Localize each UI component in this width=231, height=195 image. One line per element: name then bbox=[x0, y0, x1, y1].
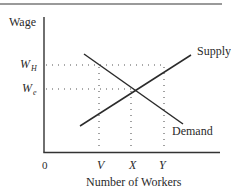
x-axis-label: Number of Workers bbox=[86, 176, 181, 188]
tick-label-origin: 0 bbox=[42, 159, 48, 171]
tick-label-v: V bbox=[97, 159, 104, 171]
tick-label-y: Y bbox=[159, 159, 166, 171]
tick-label-we: We bbox=[22, 82, 37, 96]
tick-label-wh-main: W bbox=[20, 57, 30, 71]
supply-label: Supply bbox=[197, 45, 231, 57]
y-axis-label: Wage bbox=[9, 16, 36, 28]
chart-canvas bbox=[0, 0, 231, 195]
tick-label-x: X bbox=[129, 159, 136, 171]
supply-line bbox=[80, 55, 191, 126]
tick-label-we-main: W bbox=[22, 81, 32, 95]
tick-label-wh-sub: H bbox=[31, 64, 37, 73]
demand-label: Demand bbox=[172, 125, 213, 137]
tick-label-wh: WH bbox=[20, 58, 37, 72]
tick-label-we-sub: e bbox=[33, 88, 37, 97]
